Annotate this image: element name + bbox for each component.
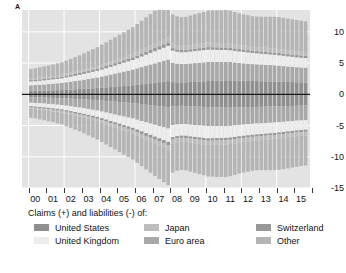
bar-segment xyxy=(60,105,64,109)
legend-item-switzerland[interactable]: Switzerland xyxy=(256,221,324,234)
bar-segment xyxy=(180,82,184,94)
bar-segment xyxy=(153,11,157,44)
bar-segment xyxy=(180,50,184,52)
x-tick-label: 03 xyxy=(83,194,93,204)
bar-segment xyxy=(73,74,77,76)
bar-segment xyxy=(78,108,82,113)
legend-item-euro-area[interactable]: Euro area xyxy=(144,234,205,247)
bar-segment xyxy=(197,63,201,82)
bar-segment xyxy=(140,134,144,138)
bar-segment xyxy=(277,17,281,49)
bar-segment xyxy=(197,48,201,50)
bar-segment xyxy=(140,84,144,94)
bar-segment xyxy=(299,67,303,82)
legend-label-other: Other xyxy=(277,236,300,246)
bar-segment xyxy=(251,137,255,141)
bar-segment xyxy=(104,124,108,144)
legend-item-other[interactable]: Other xyxy=(256,234,300,247)
bar-segment xyxy=(273,17,277,49)
bar-segment xyxy=(304,52,308,56)
bar-segment xyxy=(197,44,201,48)
bar-segment xyxy=(42,77,46,79)
bar-segment xyxy=(184,142,188,170)
bar-segment xyxy=(286,106,290,121)
bar-segment xyxy=(237,94,241,107)
bar-segment xyxy=(197,137,201,139)
bar-segment xyxy=(140,94,144,104)
bar-segment xyxy=(189,16,193,45)
legend-item-united-states[interactable]: United States xyxy=(34,221,109,234)
bar-segment xyxy=(215,81,219,94)
bar-segment xyxy=(206,107,210,126)
bar-segment xyxy=(189,125,193,137)
bar-segment xyxy=(264,54,268,65)
bar-segment xyxy=(264,136,268,140)
bar-segment xyxy=(149,53,153,65)
bar-segment xyxy=(273,106,277,122)
bar-segment xyxy=(251,124,255,135)
bar-segment xyxy=(153,140,157,144)
bar-segment xyxy=(246,94,250,107)
bar-segment xyxy=(82,74,86,80)
bar-segment xyxy=(233,44,237,48)
bar-segment xyxy=(246,81,250,94)
bar-segment xyxy=(290,67,294,82)
bar-segment xyxy=(193,143,197,173)
bar-segment xyxy=(197,82,201,95)
bar-segment xyxy=(166,60,170,82)
bar-segment xyxy=(295,121,299,131)
bar-segment xyxy=(273,65,277,81)
bar-segment xyxy=(82,70,86,72)
bar-segment xyxy=(202,50,206,62)
bar-segment xyxy=(246,107,250,124)
bar-segment xyxy=(149,46,153,50)
bar-segment xyxy=(78,94,82,99)
bar-segment xyxy=(189,136,193,138)
bar-segment xyxy=(33,81,37,85)
bar-segment xyxy=(224,126,228,138)
bar-segment xyxy=(202,144,206,175)
bar-segment xyxy=(295,106,299,121)
bar-segment xyxy=(166,81,170,94)
bar-segment xyxy=(206,94,210,107)
bar-segment xyxy=(100,94,104,100)
bar-segment xyxy=(135,136,139,163)
bar-segment xyxy=(295,82,299,94)
bar-segment xyxy=(224,50,228,62)
bar-segment xyxy=(286,50,290,54)
bar-segment xyxy=(109,114,113,121)
bar-segment xyxy=(96,119,100,121)
bar-segment xyxy=(149,94,153,105)
bar-segment xyxy=(264,65,268,81)
bar-segment xyxy=(171,48,175,51)
bar-segment xyxy=(184,64,188,82)
bar-segment xyxy=(60,111,64,113)
bar-segment xyxy=(118,35,122,59)
bar-segment xyxy=(60,77,64,79)
bar-segment xyxy=(215,43,219,48)
bar-segment xyxy=(42,98,46,104)
x-tick-mark xyxy=(206,188,207,193)
x-tick-mark xyxy=(241,188,242,193)
legend-item-japan[interactable]: Japan xyxy=(144,221,190,234)
bar-segment xyxy=(135,120,139,130)
bar-segment xyxy=(299,130,303,132)
legend-row: United KingdomEuro areaOther xyxy=(28,234,340,247)
bar-segment xyxy=(202,138,206,140)
bar-segment xyxy=(42,84,46,90)
bar-segment xyxy=(255,53,259,64)
bar-segment xyxy=(135,94,139,103)
bar-segment xyxy=(135,56,139,59)
bar-segment xyxy=(286,134,290,138)
bar-segment xyxy=(91,88,95,94)
bar-segment xyxy=(251,81,255,94)
bar-segment xyxy=(193,14,197,44)
bar-segment xyxy=(29,97,33,102)
bar-segment xyxy=(215,94,219,107)
bar-segment xyxy=(109,40,113,62)
legend-item-united-kingdom[interactable]: United Kingdom xyxy=(34,234,119,247)
bar-segment xyxy=(277,53,281,55)
panel-letter: A xyxy=(15,3,20,10)
bar-segment xyxy=(29,78,33,80)
bar-segment xyxy=(290,94,294,106)
